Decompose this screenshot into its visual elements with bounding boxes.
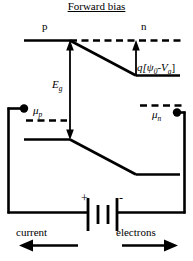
fermi-n-subscript: n (158, 114, 162, 123)
figure-canvas (0, 0, 193, 261)
electrons-direction-arrow (122, 240, 178, 252)
conduction-band-slope (70, 41, 136, 76)
left-circuit-wire (8, 104, 89, 213)
n-region-label: n (141, 21, 147, 32)
electrons-label: electrons (116, 227, 156, 238)
barrier-v-symbol: V (161, 61, 168, 73)
figure-title: Forward bias (0, 1, 193, 12)
electrons-arrow-head-right (164, 240, 178, 252)
band-gap-subscript: g (59, 84, 63, 93)
band-gap-symbol: E (52, 78, 59, 90)
forward-bias-band-diagram-figure: Forward bias p n Eg q[ψ0-Va] μp μn + - c… (0, 0, 193, 261)
current-label: current (16, 227, 47, 238)
band-gap-arrow (66, 40, 74, 140)
barrier-bracket-close: ] (172, 61, 176, 73)
barrier-psi-symbol: ψ (147, 61, 154, 73)
current-direction-arrow (19, 240, 78, 252)
fermi-p-subscript: p (39, 110, 43, 119)
valence-band (24, 140, 180, 175)
band-gap-label: Eg (52, 79, 62, 93)
battery-symbol (88, 198, 117, 231)
fermi-level-n-label: μn (152, 109, 161, 123)
battery-negative-label: - (119, 192, 123, 204)
barrier-q-symbol: q[ (137, 61, 147, 73)
fermi-level-p-label: μp (33, 105, 42, 119)
current-arrow-head-left (19, 240, 33, 252)
barrier-energy-label: q[ψ0-Va] (137, 62, 175, 76)
valence-band-slope (70, 140, 136, 175)
right-circuit-wire (117, 108, 186, 213)
battery-positive-label: + (81, 192, 88, 204)
figure-title-text: Forward bias (68, 0, 126, 12)
p-region-label: p (42, 21, 48, 32)
